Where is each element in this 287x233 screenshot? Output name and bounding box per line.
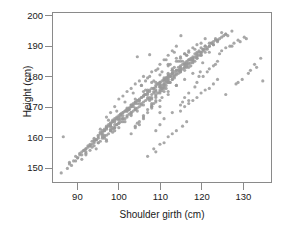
scatter-point <box>261 79 264 82</box>
scatter-point <box>230 45 233 48</box>
scatter-point <box>175 84 178 87</box>
scatter-point <box>171 132 174 135</box>
scatter-point <box>167 135 170 138</box>
scatter-point <box>255 66 258 69</box>
scatter-point <box>152 102 155 105</box>
y-tick-label: 200 <box>27 11 43 21</box>
scatter-point <box>103 128 106 131</box>
scatter-point <box>162 141 165 144</box>
scatter-point <box>214 37 217 40</box>
scatter-point <box>150 70 153 73</box>
scatter-point <box>154 85 157 88</box>
plot-panel <box>52 12 272 183</box>
scatter-point <box>197 51 200 54</box>
scatter-point <box>130 132 133 135</box>
scatter-point <box>113 105 116 108</box>
scatter-point <box>224 33 227 36</box>
scatter-point <box>179 34 182 37</box>
x-tick-100: 100 <box>118 183 119 190</box>
scatter-point <box>173 73 176 76</box>
scatter-point <box>111 126 114 129</box>
scatter-point <box>191 57 194 60</box>
scatter-point <box>220 49 223 52</box>
scatter-point <box>245 37 248 40</box>
y-tick-200: 200 <box>45 15 52 16</box>
scatter-point <box>162 90 165 93</box>
scatter-point <box>183 96 186 99</box>
scatter-point <box>146 76 149 79</box>
scatter-point <box>150 87 153 90</box>
scatter-point <box>88 143 91 146</box>
scatter-point <box>191 72 194 75</box>
y-tick-160: 160 <box>45 137 52 138</box>
scatter-point <box>179 55 182 58</box>
scatter-point <box>154 129 157 132</box>
y-tick-190: 190 <box>45 46 52 47</box>
scatter-point <box>154 99 157 102</box>
scatter-point <box>134 125 137 128</box>
scatter-point <box>158 99 161 102</box>
scatter-point <box>175 45 178 48</box>
scatter-point <box>111 131 114 134</box>
scatter-point <box>218 52 221 55</box>
scatter-point <box>160 96 163 99</box>
y-tick-150: 150 <box>45 168 52 169</box>
scatter-point <box>121 117 124 120</box>
scatter-point <box>179 67 182 70</box>
scatter-point <box>121 94 124 97</box>
scatter-point <box>179 103 182 106</box>
scatter-point <box>224 93 227 96</box>
scatter-point <box>249 69 252 72</box>
scatter-point <box>60 171 63 174</box>
scatter-point <box>237 81 240 84</box>
y-tick-label: 170 <box>27 102 43 112</box>
scatter-point <box>247 72 250 75</box>
scatter-point <box>142 75 145 78</box>
scatter-point <box>136 55 139 58</box>
scatter-point <box>78 153 81 156</box>
scatter-point <box>62 135 65 138</box>
scatter-point <box>123 120 126 123</box>
scatter-point <box>152 147 155 150</box>
scatter-point <box>232 42 235 45</box>
scatter-point <box>115 109 118 112</box>
scatter-point <box>197 75 200 78</box>
scatter-point <box>123 100 126 103</box>
scatter-point <box>158 73 161 76</box>
scatter-point <box>212 40 215 43</box>
scatter-point <box>208 51 211 54</box>
x-tick-120: 120 <box>201 183 202 190</box>
scatter-point <box>212 64 215 67</box>
scatter-point <box>158 123 161 126</box>
scatter-point <box>208 45 211 48</box>
scatter-plot-figure: Height (cm) Shoulder girth (cm) 15016017… <box>0 0 287 233</box>
x-tick-110: 110 <box>160 183 161 190</box>
scatter-point <box>142 116 145 119</box>
x-tick-label: 90 <box>72 192 83 202</box>
scatter-point <box>105 138 108 141</box>
scatter-point <box>216 60 219 63</box>
scatter-point <box>220 31 223 34</box>
scatter-point <box>224 46 227 49</box>
scatter-point <box>216 78 219 81</box>
scatter-point <box>146 155 149 158</box>
scatter-point <box>162 117 165 120</box>
scatter-point <box>171 111 174 114</box>
scatter-point <box>146 93 149 96</box>
scatter-point <box>167 90 170 93</box>
scatter-point <box>193 85 196 88</box>
scatter-point <box>128 106 131 109</box>
y-tick-label: 150 <box>27 163 43 173</box>
scatter-point <box>253 63 256 66</box>
scatter-point <box>171 69 174 72</box>
scatter-point <box>239 40 242 43</box>
scatter-point <box>169 63 172 66</box>
y-tick-170: 170 <box>45 107 52 108</box>
x-tick-label: 120 <box>194 192 210 202</box>
scatter-points-layer <box>53 13 271 182</box>
x-tick-label: 110 <box>153 192 168 202</box>
scatter-point <box>206 70 209 73</box>
scatter-point <box>138 105 141 108</box>
scatter-point <box>148 97 151 100</box>
scatter-point <box>187 99 190 102</box>
